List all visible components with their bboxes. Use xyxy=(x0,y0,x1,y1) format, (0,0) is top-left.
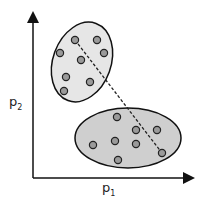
data-point xyxy=(89,141,96,148)
x-axis-label: p1 xyxy=(102,180,115,198)
data-point xyxy=(132,126,139,133)
data-point xyxy=(77,56,84,63)
cluster-diagram xyxy=(0,0,210,204)
data-point xyxy=(86,78,93,85)
data-point xyxy=(56,49,63,56)
data-point xyxy=(93,36,100,43)
data-point xyxy=(153,126,160,133)
data-point xyxy=(113,113,120,120)
data-point xyxy=(158,149,165,156)
data-point xyxy=(100,49,107,56)
data-point xyxy=(114,156,121,163)
y-axis-label: p2 xyxy=(9,94,22,112)
data-point xyxy=(71,36,78,43)
data-point xyxy=(111,137,118,144)
data-point xyxy=(132,140,139,147)
data-point xyxy=(60,87,67,94)
data-point xyxy=(62,73,69,80)
lower-cluster-ellipse xyxy=(75,108,181,168)
